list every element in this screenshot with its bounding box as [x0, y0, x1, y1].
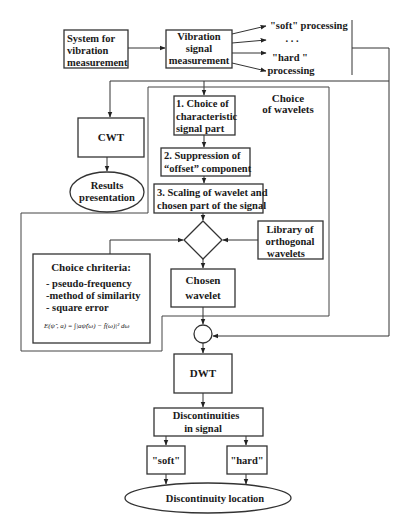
vibration-line-1: Vibration: [177, 31, 221, 42]
step2-line-1: 2. Suppression of: [164, 150, 241, 161]
system-line-3: measurement: [67, 57, 128, 68]
merge-circle: [194, 325, 212, 343]
step2-line-2: “offset” component: [164, 163, 252, 174]
library-line-2: orthogonal: [265, 236, 314, 247]
hard-processing-label-2: processing: [267, 65, 315, 76]
step1-line-3: signal part: [176, 123, 225, 134]
step1-line-1: 1. Choice of: [176, 98, 229, 109]
node-cwt: CWT: [78, 118, 144, 157]
dwt-label: DWT: [190, 367, 217, 379]
soft-label: "soft": [152, 455, 180, 466]
library-line-1: Library of: [267, 224, 314, 235]
criteria-formula: E(ψ̂ , a) = ∫|aψ̂(ω) − f̂(ω)|² dω: [43, 322, 130, 330]
criteria-item-square-error: - square error: [46, 302, 109, 313]
results-line-1: Results: [91, 180, 124, 191]
criteria-item-pseudo-frequency: - pseudo-frequency: [46, 278, 133, 289]
discontinuities-line-1: Discontinuities: [173, 410, 240, 421]
cwt-label: CWT: [98, 131, 125, 143]
node-vibration-signal-measurement: Vibration signal measurement: [166, 30, 232, 68]
vibration-line-3: measurement: [169, 55, 230, 66]
arrow-to-soft-processing: [232, 26, 266, 34]
node-chosen-wavelet: Chosen wavelet: [171, 269, 235, 307]
node-step3-scaling: 3. Scaling of wavelet and chosen part of…: [154, 184, 268, 213]
arrow-criteria-to-decision: [110, 240, 183, 254]
wavelet-group-title-2: of wavelets: [262, 103, 314, 115]
hard-processing-label-1: "hard ": [272, 52, 308, 63]
step1-line-2: characteristic: [176, 111, 238, 122]
system-line-1: System for: [67, 33, 115, 44]
library-line-3: wavelets: [267, 248, 305, 259]
step3-line-2: chosen part of the signal: [157, 200, 266, 211]
location-label: Discontinuity location: [166, 493, 264, 504]
chosen-line-2: wavelet: [185, 289, 221, 301]
hard-label: "hard": [230, 455, 263, 466]
node-step2-offset-suppression: 2. Suppression of “offset” component: [161, 148, 252, 176]
criteria-item-similarity: -method of similarity: [46, 290, 141, 301]
ellipsis-label: . . .: [285, 33, 299, 44]
chosen-line-1: Chosen: [186, 274, 221, 286]
node-soft: "soft": [147, 446, 185, 474]
node-hard: "hard": [227, 446, 267, 474]
arrow-to-other-processing: [232, 40, 266, 43]
step3-line-1: 3. Scaling of wavelet and: [157, 187, 268, 198]
node-results-presentation: Results presentation: [70, 172, 144, 212]
node-system-for-vibration-measurement: System for vibration measurement: [64, 30, 128, 68]
node-dwt: DWT: [174, 354, 232, 393]
criteria-title: Choice chriteria:: [51, 261, 131, 273]
decision-diamond: [184, 221, 222, 259]
results-line-2: presentation: [79, 192, 135, 203]
vibration-line-2: signal: [186, 43, 212, 54]
node-discontinuities-in-signal: Discontinuities in signal: [154, 408, 263, 436]
soft-processing-label: "soft" processing: [270, 20, 348, 31]
node-choice-criteria: Choice chriteria: - pseudo-frequency -me…: [33, 254, 150, 343]
node-step1-choice-of-signal-part: 1. Choice of characteristic signal part: [174, 96, 238, 135]
flowchart-diagram: System for vibration measurement Vibrati…: [0, 0, 406, 531]
node-discontinuity-location: Discontinuity location: [125, 483, 291, 513]
system-line-2: vibration: [67, 45, 109, 56]
arrow-to-hard-processing-2: [232, 63, 266, 71]
discontinuities-line-2: in signal: [184, 423, 222, 434]
node-library-of-orthogonal-wavelets: Library of orthogonal wavelets: [258, 221, 323, 259]
